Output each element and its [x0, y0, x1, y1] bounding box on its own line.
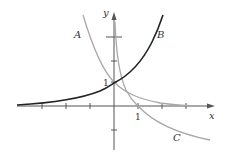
- x-tick-label-1: 1: [135, 112, 141, 122]
- y-axis-arrow-icon: [112, 12, 117, 20]
- curve-a-label: A: [73, 29, 81, 40]
- x-axis-label: x: [209, 110, 215, 121]
- y-axis-label: y: [102, 7, 109, 18]
- chart-canvas: y x 1 1 A B C: [0, 0, 225, 158]
- curve-c-label: C: [173, 132, 181, 143]
- y-tick-label-1: 1: [103, 78, 109, 88]
- curve-b: [17, 15, 163, 105]
- curve-b-label: B: [156, 29, 164, 40]
- x-axis-arrow-icon: [207, 104, 215, 109]
